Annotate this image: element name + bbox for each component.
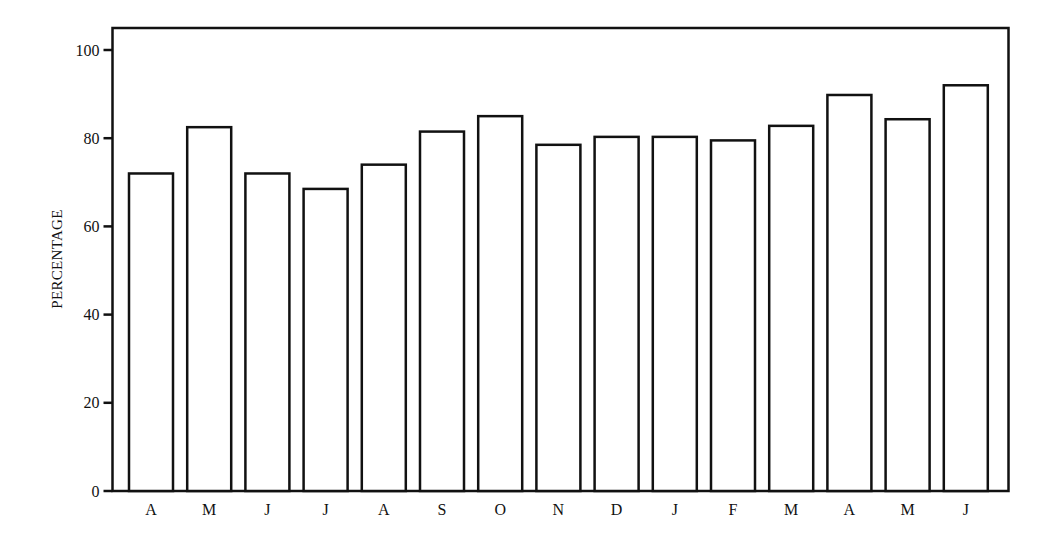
x-category-label: J (322, 501, 328, 518)
x-category-label: S (438, 501, 447, 518)
bar (420, 132, 464, 491)
y-axis: 020406080100 (76, 42, 113, 500)
x-category-label: M (784, 501, 798, 518)
x-category-label: M (900, 501, 914, 518)
y-tick-label: 100 (76, 42, 100, 59)
bar (362, 165, 406, 491)
bar (536, 145, 580, 491)
bar (653, 137, 697, 491)
y-tick-label: 80 (84, 130, 100, 147)
bar (595, 137, 639, 491)
x-category-label: O (494, 501, 506, 518)
bar (187, 127, 231, 491)
bar (129, 173, 173, 491)
bar (245, 173, 289, 491)
y-tick-label: 0 (92, 483, 100, 500)
x-category-label: A (378, 501, 390, 518)
x-category-label: N (553, 501, 565, 518)
x-category-label: J (672, 501, 678, 518)
bar (886, 119, 930, 491)
y-tick-label: 20 (84, 394, 100, 411)
y-axis-label: PERCENTAGE (49, 209, 65, 308)
bar (769, 126, 813, 491)
y-tick-label: 60 (84, 218, 100, 235)
bar (711, 140, 755, 491)
bar (478, 116, 522, 491)
bar (827, 95, 871, 491)
x-category-label: A (844, 501, 856, 518)
x-category-label: J (963, 501, 969, 518)
bar-chart: 020406080100 AMJJASONDJFMAMJ PERCENTAGE (0, 0, 1048, 541)
x-category-label: A (145, 501, 157, 518)
bars (129, 85, 988, 491)
y-tick-label: 40 (84, 306, 100, 323)
x-category-label: M (202, 501, 216, 518)
x-category-label: J (264, 501, 270, 518)
x-category-label: F (729, 501, 738, 518)
x-category-label: D (611, 501, 623, 518)
bar (944, 85, 988, 491)
bar (304, 189, 348, 491)
x-axis: AMJJASONDJFMAMJ (145, 501, 969, 518)
